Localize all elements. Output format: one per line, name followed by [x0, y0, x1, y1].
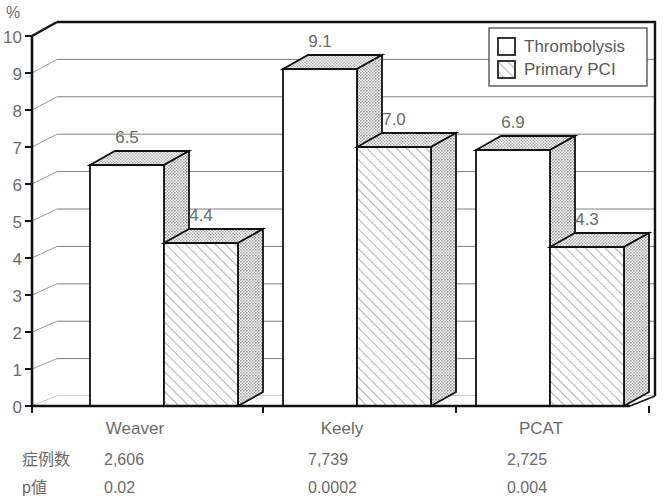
table-cell-pvalue-keely: 0.0002: [308, 479, 357, 496]
bar-pcat-primary-pci: [550, 233, 649, 406]
bar-weaver-primary-pci: [164, 229, 263, 406]
table-cell-cases-keely: 7,739: [308, 451, 348, 468]
category-label-pcat: PCAT: [519, 419, 563, 438]
y-axis: % 10 9 8 7 6 5 4 3 2 1 0: [3, 4, 32, 417]
y-tick-6: 6: [13, 176, 22, 195]
value-label-pcat-thrombolysis: 6.9: [501, 113, 525, 132]
y-tick-2: 2: [13, 324, 22, 343]
value-label-pcat-primary-pci: 4.3: [575, 210, 599, 229]
table-cell-cases-weaver: 2,606: [104, 451, 144, 468]
y-tick-8: 8: [13, 102, 22, 121]
y-tick-9: 9: [13, 65, 22, 84]
y-tick-3: 3: [13, 287, 22, 306]
table-cell-cases-pcat: 2,725: [507, 451, 547, 468]
legend: Thrombolysis Primary PCI: [489, 28, 647, 86]
legend-label-primary-pci: Primary PCI: [524, 60, 616, 79]
legend-swatch-thrombolysis: [498, 38, 515, 55]
table-row-label-pvalue: p値: [22, 479, 47, 496]
table-cell-pvalue-pcat: 0.004: [507, 479, 547, 496]
bar-chart-canvas: % 10 9 8 7 6 5 4 3 2 1 0: [0, 0, 667, 501]
y-axis-unit-label: %: [6, 4, 20, 21]
x-axis: [32, 406, 649, 413]
value-label-weaver-primary-pci: 4.4: [189, 206, 213, 225]
category-labels: Weaver Keely PCAT: [106, 419, 563, 438]
chart-figure: % 10 9 8 7 6 5 4 3 2 1 0: [0, 0, 667, 501]
legend-label-thrombolysis: Thrombolysis: [524, 37, 625, 56]
value-label-weaver-thrombolysis: 6.5: [115, 128, 139, 147]
annotation-table: 症例数 2,606 7,739 2,725 p値 0.02 0.0002 0.0…: [22, 451, 547, 496]
depth-connectors: [32, 59, 57, 406]
table-cell-pvalue-weaver: 0.02: [104, 479, 135, 496]
y-tick-4: 4: [13, 250, 22, 269]
legend-swatch-primary-pci: [498, 61, 515, 78]
y-tick-10: 10: [3, 28, 22, 47]
category-label-weaver: Weaver: [106, 419, 165, 438]
category-label-keely: Keely: [321, 419, 364, 438]
y-tick-5: 5: [13, 213, 22, 232]
value-label-keely-primary-pci: 7.0: [382, 110, 406, 129]
table-row-label-cases: 症例数: [22, 451, 70, 468]
value-label-keely-thrombolysis: 9.1: [308, 32, 332, 51]
y-tick-1: 1: [13, 361, 22, 380]
y-tick-0: 0: [13, 398, 22, 417]
y-tick-7: 7: [13, 139, 22, 158]
bar-keely-primary-pci: [357, 133, 456, 406]
